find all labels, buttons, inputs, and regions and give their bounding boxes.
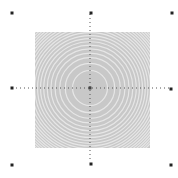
left-center-marker	[11, 87, 14, 90]
bottom-center-marker	[90, 163, 93, 166]
corner-top-right-marker	[171, 12, 174, 15]
top-center-marker	[90, 12, 93, 15]
corner-bottom-right-marker	[170, 164, 173, 167]
corner-bottom-left-marker	[11, 164, 14, 167]
ring-pattern-diagram	[0, 0, 178, 178]
center-marker	[89, 87, 92, 90]
corner-top-left-marker	[11, 12, 14, 15]
right-center-marker	[170, 88, 173, 91]
